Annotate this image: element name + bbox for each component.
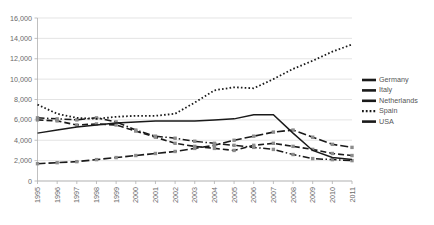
y-tick-label: 8,000	[14, 95, 32, 104]
data-point-marker	[232, 139, 235, 142]
data-point-marker	[134, 154, 137, 157]
chart-legend: GermanyItalyNetherlandsSpainUSA	[362, 75, 418, 126]
series-lines	[36, 44, 354, 165]
chart-canvas: 02,0004,0006,0008,00010,00012,00014,0001…	[0, 0, 434, 225]
data-point-marker	[232, 144, 235, 147]
line-chart: 02,0004,0006,0008,00010,00012,00014,0001…	[0, 0, 434, 225]
legend-label-spain: Spain	[379, 106, 397, 115]
data-point-marker	[311, 135, 314, 138]
x-tick-label: 1997	[72, 187, 81, 203]
x-tick-label: 2003	[190, 187, 199, 203]
x-tick-label: 2000	[131, 187, 140, 203]
data-point-marker	[154, 152, 157, 155]
y-tick-label: 10,000	[10, 75, 32, 84]
y-axis-tick-labels: 02,0004,0006,0008,00010,00012,00014,0001…	[10, 14, 32, 186]
legend-label-netherlands: Netherlands	[379, 96, 418, 105]
x-tick-label: 2007	[269, 187, 278, 203]
series-line-usa	[38, 115, 353, 160]
data-point-marker	[350, 146, 353, 149]
data-point-marker	[36, 162, 39, 165]
y-tick-label: 4,000	[14, 136, 32, 145]
data-point-marker	[95, 158, 98, 161]
y-tick-label: 14,000	[10, 34, 32, 43]
y-tick-label: 6,000	[14, 115, 32, 124]
x-tick-label: 2006	[249, 187, 258, 203]
x-tick-label: 2008	[289, 187, 298, 203]
x-tick-label: 2002	[171, 187, 180, 203]
y-tick-label: 16,000	[10, 14, 32, 23]
data-point-marker	[75, 160, 78, 163]
legend-label-usa: USA	[379, 117, 394, 126]
x-tick-label: 1998	[92, 187, 101, 203]
data-point-marker	[331, 152, 334, 155]
x-tick-label: 2009	[308, 187, 317, 203]
x-tick-label: 2010	[328, 187, 337, 203]
data-point-marker	[272, 148, 275, 151]
data-point-marker	[36, 116, 39, 119]
x-tick-label: 1996	[53, 187, 62, 203]
legend-label-italy: Italy	[379, 85, 393, 94]
data-point-marker	[55, 117, 58, 120]
data-point-marker	[55, 161, 58, 164]
data-point-marker	[173, 150, 176, 153]
x-axis-tick-labels: 1995199619971998199920002001200220032004…	[33, 187, 357, 203]
x-tick-label: 2011	[348, 187, 357, 202]
y-tick-label: 2,000	[14, 156, 32, 165]
data-point-marker	[114, 156, 117, 159]
data-point-marker	[193, 140, 196, 143]
series-line-germany	[38, 120, 353, 156]
data-point-marker	[252, 134, 255, 137]
x-tick-label: 2001	[151, 187, 160, 203]
x-tick-label: 1995	[33, 187, 42, 203]
data-point-marker	[134, 128, 137, 131]
data-point-marker	[311, 157, 314, 160]
data-point-marker	[272, 142, 275, 145]
x-tick-label: 2005	[230, 187, 239, 203]
data-point-marker	[252, 146, 255, 149]
data-point-marker	[173, 137, 176, 140]
data-point-marker	[154, 134, 157, 137]
data-point-marker	[173, 142, 176, 145]
y-tick-label: 0	[28, 177, 32, 186]
legend-label-germany: Germany	[379, 75, 409, 84]
data-point-marker	[232, 149, 235, 152]
data-point-marker	[193, 147, 196, 150]
x-tick-label: 2004	[210, 187, 219, 203]
data-point-marker	[350, 154, 353, 157]
axes	[35, 18, 353, 184]
data-point-marker	[291, 145, 294, 148]
data-point-marker	[331, 143, 334, 146]
data-point-marker	[291, 153, 294, 156]
series-line-spain	[38, 44, 353, 118]
data-point-marker	[213, 142, 216, 145]
data-point-marker	[213, 147, 216, 150]
x-tick-label: 1999	[112, 187, 121, 203]
data-point-marker	[272, 130, 275, 133]
y-tick-label: 12,000	[10, 54, 32, 63]
